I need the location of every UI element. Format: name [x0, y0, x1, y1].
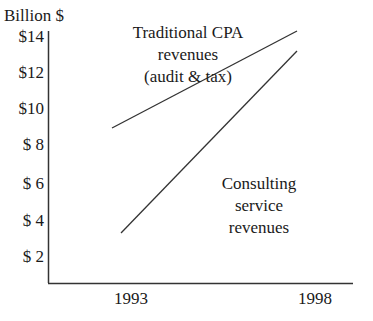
annotation-line: Consulting	[199, 173, 319, 195]
x-tick-1993: 1993	[114, 289, 148, 309]
annotation-consulting: Consulting service revenues	[199, 173, 319, 239]
annotation-line: revenues	[199, 217, 319, 239]
x-tick-1998: 1998	[298, 289, 332, 309]
annotation-traditional-cpa: Traditional CPA revenues (audit & tax)	[118, 22, 258, 88]
annotation-line: (audit & tax)	[118, 66, 258, 88]
annotation-line: service	[199, 195, 319, 217]
annotation-line: Traditional CPA	[118, 22, 258, 44]
annotation-line: revenues	[118, 44, 258, 66]
